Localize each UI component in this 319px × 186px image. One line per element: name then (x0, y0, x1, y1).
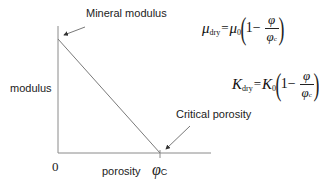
shear-modulus-equation: μdry = μ0 ( 1− φ φc ) (202, 8, 283, 48)
phi-fraction: φ φc (300, 69, 314, 99)
y-axis-label: modulus (10, 83, 52, 94)
mu-dry-symbol: μ (202, 20, 210, 37)
mu-zero-symbol: μ (230, 20, 238, 37)
critical-porosity-arrow (166, 126, 190, 149)
mineral-modulus-label: Mineral modulus (86, 8, 167, 19)
left-paren: ( (275, 68, 281, 100)
phi-c-subscript: C (161, 167, 168, 177)
left-paren: ( (240, 12, 246, 44)
phi-symbol: φ (152, 161, 161, 178)
right-paren: ) (278, 12, 284, 44)
right-paren: ) (313, 68, 319, 100)
phi-c-label: φC (152, 162, 167, 178)
critical-porosity-diagram: Mineral modulus Critical porosity modulu… (0, 0, 319, 186)
x-axis-label: porosity (102, 166, 141, 177)
phi-fraction: φ φc (265, 13, 279, 43)
equals-sign: = (254, 76, 261, 92)
origin-label: 0 (52, 160, 59, 173)
k-dry-symbol: K (232, 76, 242, 93)
modulus-line (58, 39, 160, 153)
bulk-modulus-equation: Kdry = K0 ( 1− φ φc ) (232, 64, 318, 104)
mineral-modulus-arrow (64, 27, 85, 35)
equals-sign: = (221, 20, 228, 36)
k-zero-symbol: K (262, 76, 272, 93)
critical-porosity-label: Critical porosity (176, 109, 251, 120)
